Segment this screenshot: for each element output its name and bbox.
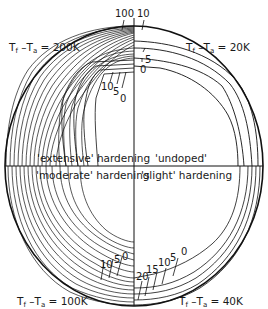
label-top-left-temperature: Tf –Ta = 200K	[9, 42, 80, 55]
quadrant-label-slight: 'slight' hardening	[141, 170, 232, 181]
contours-bottom-left	[8, 166, 134, 305]
contour-label-5-top-left: 5	[113, 87, 119, 97]
contour-label-10-bottom-right: 10	[158, 258, 171, 268]
label-bottom-right-temperature: Tf –Ta = 40K	[179, 296, 243, 309]
label-top-right-temperature: Tf –Ta = 20K	[186, 42, 250, 55]
contour-label-0-top-left: 0	[120, 94, 126, 104]
contour-label-100: 100	[115, 9, 134, 19]
quadrant-label-undoped: 'undoped'	[155, 153, 207, 164]
contour-label-5-bottom-left: 5	[114, 255, 120, 265]
contour-label-0-bottom-right: 0	[181, 247, 187, 257]
contours-top-right	[134, 41, 258, 166]
contour-label-15-bottom-right: 15	[146, 265, 159, 275]
contour-label-5-bottom-right: 5	[170, 253, 176, 263]
contour-label-0-top-right: 0	[140, 65, 146, 75]
contour-label-10-top-left: 10	[101, 82, 114, 92]
contours-bottom-right	[134, 166, 260, 305]
quadrant-label-extensive: 'extensive' hardening	[37, 153, 150, 164]
quadrant-label-moderate: 'moderate' hardening	[36, 170, 149, 181]
contour-label-0-bottom-left: 0	[122, 252, 128, 262]
contour-label-10-top: 10	[137, 9, 150, 19]
contour-label-10-bottom-left: 10	[100, 260, 113, 270]
label-bottom-left-temperature: Tf –Ta = 100K	[17, 296, 88, 309]
hardening-contour-diagram: Tf –Ta = 200K Tf –Ta = 20K Tf –Ta = 100K…	[0, 0, 268, 309]
